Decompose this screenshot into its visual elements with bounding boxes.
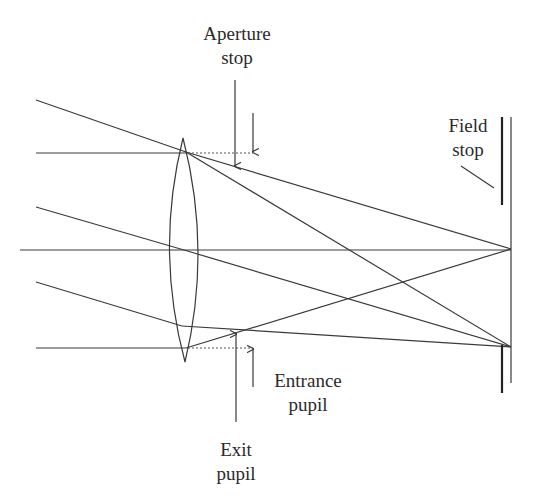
aperture-stop-label-line1: Aperture xyxy=(196,22,278,46)
exit-pupil-label: Exit pupil xyxy=(214,438,258,486)
ray-chief-oblique-in xyxy=(36,207,184,250)
field-stop-label-line1: Field xyxy=(448,114,488,138)
optics-diagram: Aperture stop Field stop Entrance pupil … xyxy=(0,0,536,504)
aperture-stop-label: Aperture stop xyxy=(196,22,278,70)
field-stop-pointer xyxy=(461,166,494,188)
diagram-canvas xyxy=(0,0,536,504)
entrance-pupil-label-line1: Entrance xyxy=(268,369,348,393)
field-stop-label-line2: stop xyxy=(448,138,488,162)
exit-pupil-label-line2: pupil xyxy=(214,462,258,486)
exit-pupil-label-line1: Exit xyxy=(214,438,258,462)
entrance-pupil-label: Entrance pupil xyxy=(268,369,348,417)
ray-upper-oblique-in xyxy=(36,100,186,152)
aperture-stop-label-line2: stop xyxy=(196,46,278,70)
ray-lower-oblique-out xyxy=(182,326,511,347)
ray-lower-oblique-in xyxy=(36,282,182,326)
field-stop-label: Field stop xyxy=(448,114,488,162)
entrance-pupil-label-line2: pupil xyxy=(268,393,348,417)
